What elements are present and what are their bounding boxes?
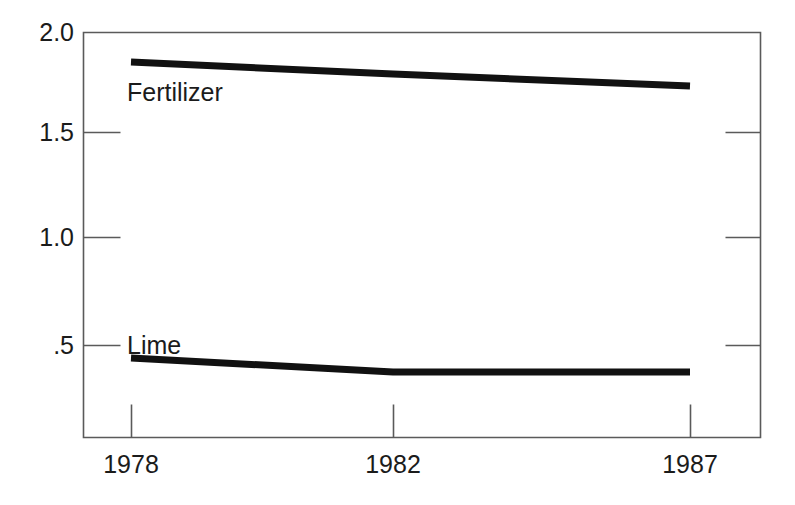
xtick-label-1978: 1978: [71, 452, 191, 477]
series-label-lime: Lime: [127, 333, 181, 358]
ytick-label-1-0: 1.0: [14, 225, 74, 250]
xtick-label-1982: 1982: [333, 452, 453, 477]
y-axis-ticks-right: [726, 133, 761, 346]
x-axis-ticks: [132, 405, 691, 438]
line-chart-figure: 2.0 1.5 1.0 .5 1978 1982 1987 Fertilizer…: [0, 0, 795, 505]
series-lines: [131, 62, 690, 372]
series-label-fertilizer: Fertilizer: [127, 80, 223, 105]
y-axis-ticks-left: [84, 133, 121, 346]
ytick-label-0-5: .5: [14, 333, 74, 358]
ytick-label-2-0: 2.0: [14, 20, 74, 45]
plot-area-svg: [0, 0, 795, 505]
xtick-label-1987: 1987: [630, 452, 750, 477]
ytick-label-1-5: 1.5: [14, 120, 74, 145]
series-line-lime: [131, 358, 690, 372]
